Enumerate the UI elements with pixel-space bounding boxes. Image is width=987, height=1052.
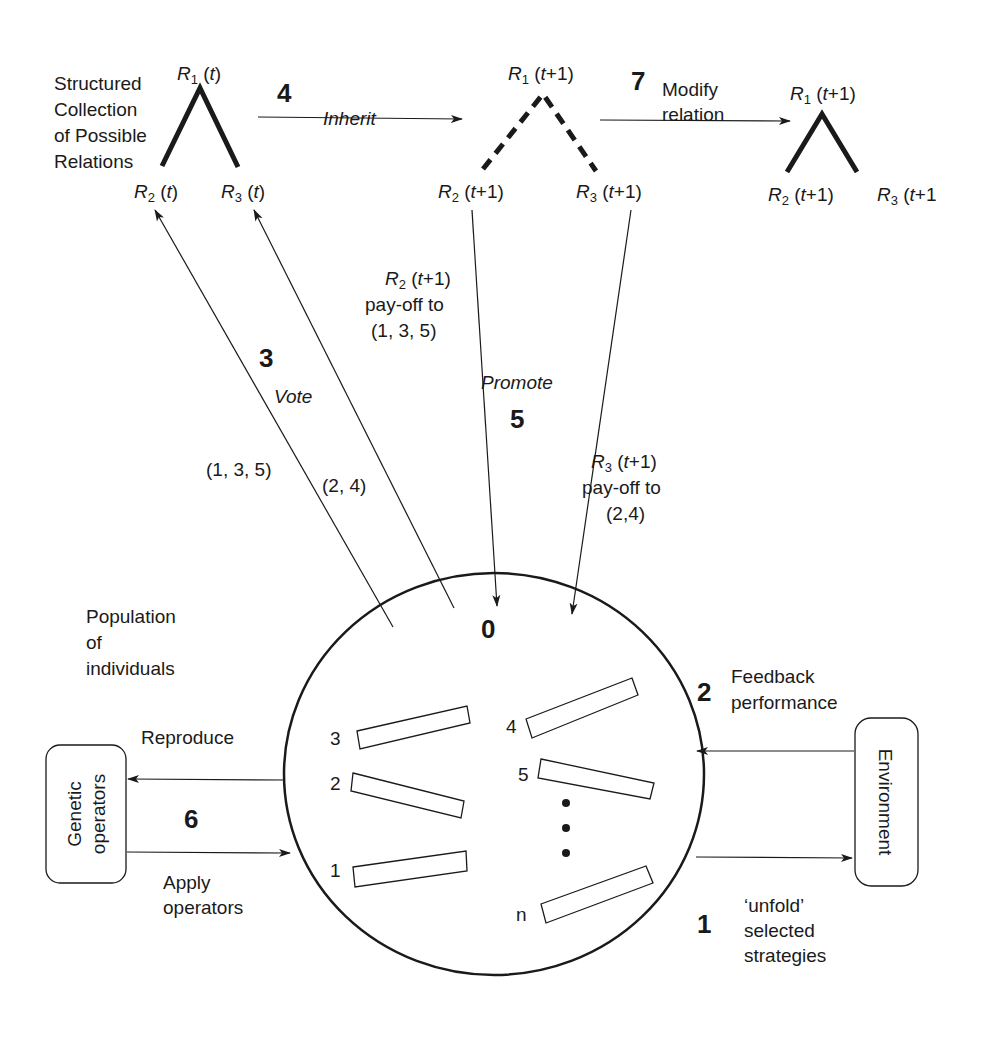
step-number-1: 1 bbox=[697, 909, 711, 939]
population-label-line-2: of bbox=[86, 632, 103, 653]
node-r1-t1-inherited: R1 (t+1) bbox=[508, 63, 574, 87]
ellipsis-dot-3 bbox=[562, 849, 570, 857]
node-r1-t: R1 (t) bbox=[177, 63, 221, 87]
strategy-label-5: 5 bbox=[518, 764, 529, 785]
modify-label-line-1: Modify bbox=[662, 79, 718, 100]
population-label-line-1: Population bbox=[86, 606, 176, 627]
node-r2-t: R2 (t) bbox=[134, 181, 178, 205]
strategy-bar-5 bbox=[538, 759, 654, 799]
promote-label: Promote bbox=[481, 372, 553, 393]
collection-label-line-4: Relations bbox=[54, 151, 133, 172]
payoff-r2-line-2: (1, 3, 5) bbox=[371, 320, 436, 341]
tree-t1-modified-edges bbox=[787, 114, 857, 172]
ellipsis-dot-1 bbox=[562, 799, 570, 807]
tree-t-edges bbox=[162, 88, 238, 167]
unfold-label-line-3: strategies bbox=[744, 945, 826, 966]
ga-relations-diagram: Structured Collection of Possible Relati… bbox=[0, 0, 987, 1052]
node-r3-t1-inherited: R3 (t+1) bbox=[576, 181, 642, 205]
node-r2-t1-modified: R2 (t+1) bbox=[768, 184, 834, 208]
step-6-genetic-operators: Genetic operators Reproduce 6 Apply oper… bbox=[46, 727, 290, 918]
strategy-label-4: 4 bbox=[506, 716, 517, 737]
relation-tree-t1-modified: R1 (t+1) R2 (t+1) R3 (t+1 bbox=[768, 83, 937, 208]
apply-label-line-1: Apply bbox=[163, 872, 211, 893]
strategy-4: 4 bbox=[506, 678, 638, 738]
strategy-ellipsis bbox=[562, 799, 570, 857]
step-5-promote: R2 (t+1) pay-off to (1, 3, 5) Promote 5 … bbox=[365, 210, 661, 614]
vote-group-r2: (1, 3, 5) bbox=[206, 459, 271, 480]
step-number-3: 3 bbox=[259, 343, 273, 373]
reproduce-arrow bbox=[128, 779, 285, 780]
modify-arrow bbox=[600, 120, 790, 121]
strategy-bar-3 bbox=[357, 706, 470, 749]
strategy-label-3: 3 bbox=[330, 728, 341, 749]
strategy-5: 5 bbox=[518, 759, 654, 799]
step-number-2: 2 bbox=[697, 677, 711, 707]
strategy-bar-1 bbox=[353, 851, 467, 887]
vote-group-r3: (2, 4) bbox=[322, 475, 366, 496]
relation-tree-t1-inherited: R1 (t+1) R2 (t+1) R3 (t+1) bbox=[438, 63, 642, 205]
vote-arrow-r2 bbox=[155, 210, 393, 627]
node-r3-t: R3 (t) bbox=[221, 181, 265, 205]
strategy-label-1: 1 bbox=[330, 860, 341, 881]
strategy-2: 2 bbox=[330, 773, 464, 818]
step-number-7: 7 bbox=[631, 66, 645, 96]
step-7-modify-relation: 7 Modify relation bbox=[600, 66, 790, 125]
strategy-3: 3 bbox=[330, 706, 470, 749]
payoff-r3-head: R3 (t+1) bbox=[591, 451, 657, 475]
strategy-bar-n bbox=[541, 866, 653, 923]
collection-label-line-2: Collection bbox=[54, 99, 137, 120]
strategy-label-n: n bbox=[516, 904, 527, 925]
collection-label-line-1: Structured bbox=[54, 73, 142, 94]
collection-label-line-3: of Possible bbox=[54, 125, 147, 146]
environment-label: Environment bbox=[875, 749, 896, 856]
population-label-line-3: individuals bbox=[86, 658, 175, 679]
strategy-n: n bbox=[516, 866, 653, 925]
environment-group: Environment 2 Feedback performance 1 ‘un… bbox=[696, 666, 918, 966]
payoff-r3-line-1: pay-off to bbox=[582, 477, 661, 498]
relation-tree-t: Structured Collection of Possible Relati… bbox=[54, 63, 265, 205]
payoff-r2-line-1: pay-off to bbox=[365, 294, 444, 315]
apply-label-line-2: operators bbox=[163, 897, 243, 918]
vote-label: Vote bbox=[274, 386, 312, 407]
reproduce-label: Reproduce bbox=[141, 727, 234, 748]
strategy-bar-4 bbox=[526, 678, 638, 738]
modify-label-line-2: relation bbox=[662, 104, 724, 125]
strategy-bar-2 bbox=[351, 773, 464, 818]
step-number-0: 0 bbox=[481, 614, 495, 644]
step-number-4: 4 bbox=[277, 78, 292, 108]
unfold-arrow bbox=[696, 857, 852, 858]
strategy-1: 1 bbox=[330, 851, 467, 887]
payoff-arrow-r3 bbox=[572, 210, 631, 614]
step-number-5: 5 bbox=[510, 404, 524, 434]
ellipsis-dot-2 bbox=[562, 824, 570, 832]
step-number-6: 6 bbox=[184, 804, 198, 834]
unfold-label-line-1: ‘unfold’ bbox=[744, 895, 804, 916]
strategy-label-2: 2 bbox=[330, 773, 341, 794]
genetic-operators-box bbox=[46, 745, 126, 883]
apply-operators-arrow bbox=[127, 852, 290, 853]
payoff-arrow-r2 bbox=[472, 210, 497, 606]
step-4-inherit: 4 Inherit bbox=[258, 78, 462, 129]
feedback-label-line-1: Feedback bbox=[731, 666, 815, 687]
payoff-r2-head: R2 (t+1) bbox=[385, 268, 451, 292]
node-r1-t1-modified: R1 (t+1) bbox=[790, 83, 856, 107]
tree-t1-dashed-edges bbox=[483, 94, 596, 171]
unfold-label-line-2: selected bbox=[744, 920, 815, 941]
genetic-operators-label-2: operators bbox=[88, 774, 109, 854]
node-r3-t1-modified: R3 (t+1 bbox=[877, 184, 937, 208]
node-r2-t1-inherited: R2 (t+1) bbox=[438, 181, 504, 205]
payoff-r3-line-2: (2,4) bbox=[606, 503, 645, 524]
genetic-operators-label-1: Genetic bbox=[64, 781, 85, 846]
feedback-label-line-2: performance bbox=[731, 692, 838, 713]
